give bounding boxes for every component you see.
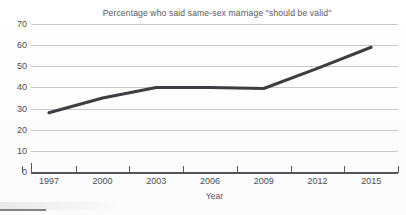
plot-area: 706050403020100 xyxy=(31,24,398,172)
x-tick-6 xyxy=(344,166,345,173)
y-tick-label-70: 70 xyxy=(1,19,27,29)
x-tick-1 xyxy=(76,166,77,173)
x-tick-label-1997: 1997 xyxy=(39,176,59,186)
x-tick-label-2015: 2015 xyxy=(361,176,381,186)
x-tick-0 xyxy=(22,166,23,173)
x-tick-label-2009: 2009 xyxy=(254,176,274,186)
gridline-40 xyxy=(31,87,398,88)
gridline-20 xyxy=(31,130,398,131)
y-tick-label-40: 40 xyxy=(1,82,27,92)
y-tick-label-10: 10 xyxy=(1,146,27,156)
chart-screenshot: Percentage who said same-sex marriage "s… xyxy=(0,0,406,215)
chart-title: Percentage who said same-sex marriage "s… xyxy=(36,8,398,18)
x-axis-title: Year xyxy=(31,191,398,201)
x-tick-label-2012: 2012 xyxy=(307,176,327,186)
x-tick-7 xyxy=(398,166,399,173)
y-tick-label-30: 30 xyxy=(1,104,27,114)
gridline-60 xyxy=(31,45,398,46)
y-tick-label-0: 0 xyxy=(1,167,27,177)
gridline-50 xyxy=(31,66,398,67)
x-tick-4 xyxy=(237,166,238,173)
x-tick-label-2006: 2006 xyxy=(200,176,220,186)
y-tick-label-20: 20 xyxy=(1,125,27,135)
x-tick-label-2003: 2003 xyxy=(146,176,166,186)
x-tick-3 xyxy=(183,166,184,173)
y-tick-label-60: 60 xyxy=(1,40,27,50)
x-tick-label-2000: 2000 xyxy=(93,176,113,186)
x-tick-5 xyxy=(291,166,292,173)
y-tick-label-50: 50 xyxy=(1,61,27,71)
x-axis-line xyxy=(31,172,398,174)
gridline-10 xyxy=(31,151,398,152)
scan-edge-artifact xyxy=(0,209,46,211)
gridline-70 xyxy=(31,24,398,25)
x-tick-2 xyxy=(129,166,130,173)
gridline-30 xyxy=(31,109,398,110)
